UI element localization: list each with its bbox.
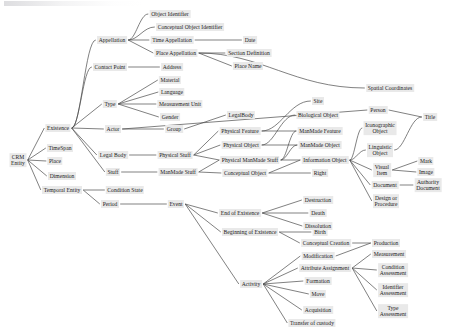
node-group: Group: [165, 125, 183, 133]
node-stuff: Stuff: [106, 168, 120, 176]
node-acquisition: Acquisition: [303, 306, 333, 314]
node-conceptual-object-identifier: Conceptual Object Identifier: [156, 23, 224, 31]
node-gender: Gender: [160, 113, 180, 121]
node-event: Event: [168, 200, 184, 208]
node-type-assessment: TypeAssessment: [378, 304, 408, 318]
node-transfer-of-custody: Transfer of custody: [288, 319, 335, 327]
node-legalbody: LegalBody: [227, 111, 255, 119]
node-document: Document: [372, 181, 399, 189]
node-temporal-entity: Temporal Entity: [42, 186, 82, 194]
node-image: Image: [417, 168, 434, 176]
node-conceptual-object: Conceptual Object: [222, 169, 267, 177]
node-end-of-existence: End of Existence: [219, 209, 261, 217]
node-linguistic-object: LinguisticObject: [367, 143, 393, 157]
node-material: Material: [159, 76, 181, 84]
crm-entity-diagram: CRMEntityExistenceTimeSpanPlaceDimension…: [0, 0, 450, 335]
node-iconographic-object: IconographicObject: [364, 121, 397, 135]
node-object-identifier: Object Identifier: [150, 10, 191, 18]
node-language: Language: [159, 88, 184, 96]
node-biological-object: Biological Object: [296, 111, 339, 119]
node-type: Type: [103, 100, 117, 108]
node-condition-assessment: ConditionAssessment: [378, 263, 408, 277]
node-place-appellation: Place Appellation: [154, 49, 197, 57]
node-spatial-coordinates: Spatial Coordinates: [366, 84, 414, 92]
node-move: Move: [310, 290, 326, 298]
node-site: Site: [312, 97, 324, 105]
node-activity: Activity: [240, 280, 262, 288]
node-contact-point: Contact Point: [93, 63, 127, 71]
node-design-or-procedure: Design orProcedure: [373, 194, 399, 208]
node-place-name: Place Name: [233, 62, 263, 70]
node-measurement-unit: Measurement Unit: [157, 100, 202, 108]
node-existence: Existence: [45, 124, 70, 132]
node-production: Production: [372, 239, 400, 247]
node-period: Period: [101, 200, 119, 208]
node-address: Address: [161, 63, 183, 71]
node-death: Death: [310, 209, 327, 217]
node-physical-feature: Physical Feature: [220, 127, 261, 135]
node-attribute-assignment: Attribute Assignment: [299, 264, 351, 272]
node-layer: CRMEntityExistenceTimeSpanPlaceDimension…: [0, 0, 450, 335]
node-place: Place: [47, 157, 62, 165]
node-condition-state: Condition State: [106, 186, 144, 194]
node-measurement: Measurement: [372, 250, 406, 258]
node-physical-object: Physical Object: [222, 141, 261, 149]
node-visual-item: VisualItem: [373, 163, 391, 177]
node-timespan: TimeSpan: [47, 144, 73, 152]
node-manmade-feature: ManMade Feature: [298, 127, 343, 135]
node-person: Person: [369, 106, 388, 114]
node-actor: Actor: [105, 125, 121, 133]
node-authority-document: AuthorityDocument: [415, 178, 442, 192]
node-time-appellation: Time Appellation: [151, 36, 194, 44]
node-physical-stuff: Physical Stuff: [158, 151, 193, 159]
node-manmade-stuff: ManMade Stuff: [159, 168, 198, 176]
node-modification: Modification: [302, 252, 335, 260]
node-beginning-of-existence: Beginning of Existence: [222, 228, 278, 236]
node-manmade-object: ManMade Object: [299, 141, 342, 149]
node-legal-body-space: Legal Body: [98, 151, 128, 159]
node-conceptual-creation: Conceptual Creation: [301, 239, 351, 247]
node-crm-entity: CRMEntity: [10, 153, 27, 167]
node-identifier-assessment: IdentifierAssessment: [378, 283, 408, 297]
node-physical-manmade-stuff: Physical ManMade Stuff: [220, 156, 279, 164]
node-date: Date: [243, 36, 257, 44]
node-appellation: Appellation: [97, 36, 127, 44]
node-title: Title: [423, 113, 437, 121]
node-birth: Birth: [313, 228, 328, 236]
node-right: Right: [312, 169, 328, 177]
node-information-object: Information Object: [302, 156, 349, 164]
node-mark: Mark: [418, 157, 433, 165]
node-destruction: Destruction: [303, 196, 333, 204]
node-section-definition: Section Definition: [227, 49, 272, 57]
node-formation: Formation: [305, 277, 332, 285]
node-dimension: Dimension: [48, 172, 76, 180]
